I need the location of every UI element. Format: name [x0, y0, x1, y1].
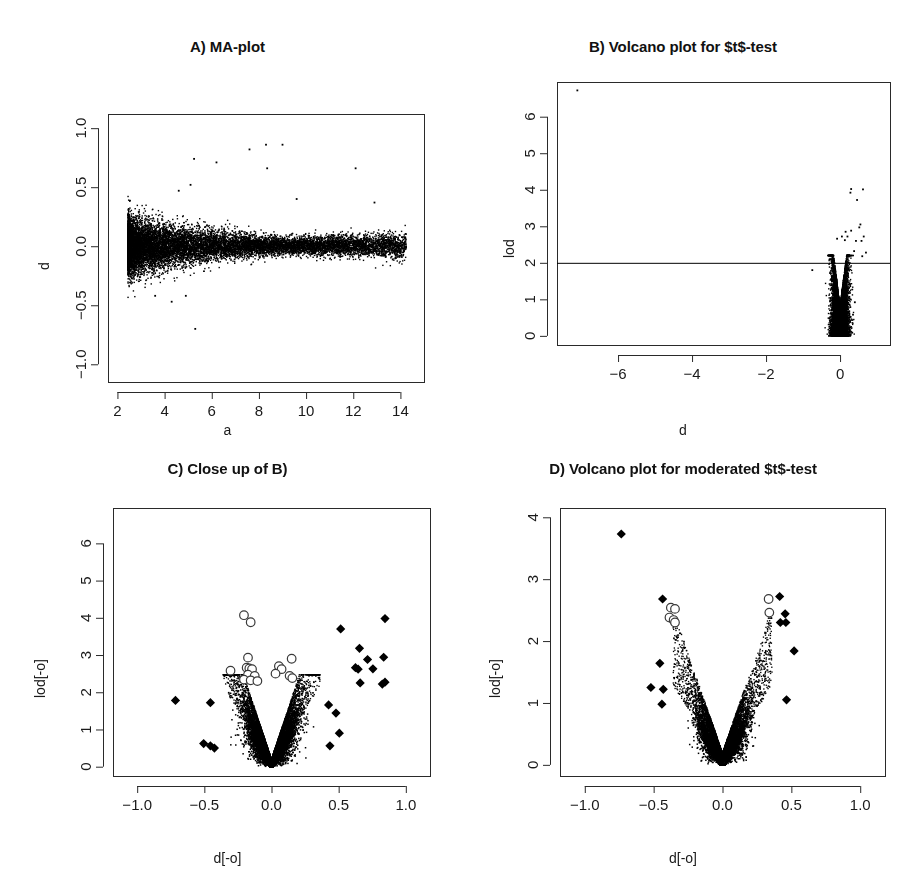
panel-d-plot: [455, 450, 911, 888]
panel-a-plot: [0, 30, 455, 450]
panel-d-ylabel: lod[-o]: [487, 659, 503, 698]
panel-c: C) Close up of B) d[-o] lod[-o]: [0, 450, 455, 888]
panel-d-xlabel: d[-o]: [455, 850, 911, 866]
panel-b-ylabel: lod: [501, 239, 517, 258]
panel-d: D) Volcano plot for moderated $t$-test d…: [455, 450, 911, 888]
panel-a: A) MA-plot a d: [0, 30, 455, 450]
panel-b-xlabel: d: [455, 422, 911, 438]
panel-c-xlabel: d[-o]: [0, 850, 455, 866]
panel-c-ylabel: lod[-o]: [32, 659, 48, 698]
panel-b-plot: [455, 30, 911, 450]
panel-c-plot: [0, 450, 455, 888]
panel-b: B) Volcano plot for $t$-test d lod: [455, 30, 911, 450]
panel-a-ylabel: d: [36, 262, 52, 270]
panel-a-xlabel: a: [0, 422, 455, 438]
figure-canvas: A) MA-plot a d B) Volcano plot for $t$-t…: [0, 0, 911, 888]
